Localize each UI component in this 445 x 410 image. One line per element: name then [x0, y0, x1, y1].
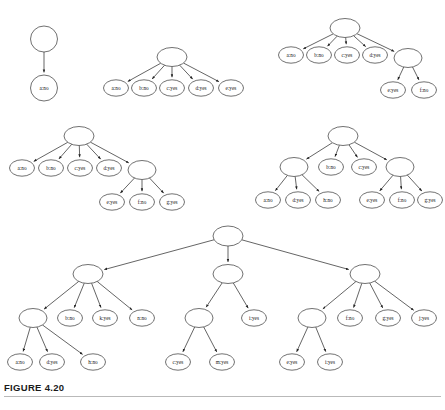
tree-node-empty — [330, 19, 360, 38]
tree-edge — [34, 142, 68, 161]
tree-edge — [349, 145, 358, 158]
tree-edge — [398, 67, 404, 80]
tree-edge — [370, 283, 383, 308]
tree-node-labeled: f:no — [412, 82, 437, 98]
tree-node-empty — [213, 265, 243, 284]
tree-node-labeled: d:yes — [189, 80, 214, 96]
tree-node-labeled: h:no — [81, 354, 106, 370]
tree-edge — [295, 176, 297, 189]
tree-node-labeled: a:no — [10, 160, 35, 176]
tree-edge — [206, 283, 222, 307]
tree-node-empty — [386, 158, 414, 177]
node-label: a:no — [286, 52, 295, 58]
caption-divider — [4, 396, 441, 397]
tree-edge — [375, 281, 414, 310]
node-ellipse — [31, 26, 58, 52]
tree-node-labeled: k:yes — [93, 310, 118, 326]
tree-nodes-tree-5: b:noc:yesa:nod:yesh:noe:yesf:nog:yes — [256, 127, 443, 209]
node-ellipse — [19, 309, 47, 328]
node-label: g:yes — [166, 199, 177, 205]
tree-node-empty — [298, 309, 326, 328]
tree-edge — [401, 176, 402, 189]
tree-node-labeled: b:no — [39, 160, 64, 176]
tree-edge — [354, 36, 366, 47]
tree-node-empty — [394, 49, 422, 68]
figure-caption-block: FIGURE 4.20 — [4, 382, 441, 397]
node-label: d:yes — [292, 197, 303, 203]
node-label: a:no — [15, 359, 24, 365]
node-label: h:no — [88, 359, 98, 365]
tree-node-labeled: b:no — [132, 80, 157, 96]
tree-node-labeled: m:yes — [210, 354, 235, 370]
node-label: m:yes — [216, 359, 229, 365]
node-ellipse — [157, 48, 187, 67]
tree-node-empty — [64, 127, 94, 146]
tree-node-empty — [280, 158, 308, 177]
tree-edge — [302, 175, 319, 192]
node-ellipse — [386, 158, 414, 177]
node-label: f:no — [138, 199, 147, 205]
node-label: c:yes — [359, 164, 370, 170]
tree-edge — [306, 143, 332, 159]
node-label: a:no — [39, 85, 48, 91]
tree-node-empty — [31, 26, 58, 52]
node-label: e:yes — [367, 197, 378, 203]
tree-edge — [297, 327, 308, 352]
tree-node-labeled: c:yes — [160, 80, 185, 96]
tree-node-labeled: a:no — [256, 192, 281, 208]
tree-edge — [74, 283, 84, 307]
node-label: b:no — [314, 52, 324, 58]
tree-node-labeled: d:yes — [97, 160, 122, 176]
tree-node-labeled: c:yes — [352, 159, 377, 175]
tree-edge — [97, 282, 132, 310]
tree-edge — [354, 142, 386, 160]
tree-edge — [242, 240, 349, 270]
node-label: f:no — [420, 87, 429, 93]
tree-edge — [150, 178, 164, 193]
tree-node-labeled: h:no — [316, 192, 341, 208]
tree-edge — [323, 282, 356, 309]
tree-node-empty — [128, 161, 156, 180]
node-label: c:yes — [342, 52, 353, 58]
tree-edge — [327, 36, 337, 46]
tree-edge — [407, 175, 422, 191]
tree-edge — [180, 65, 193, 79]
tree-node-labeled: a:no — [104, 80, 129, 96]
tree-edge — [184, 63, 219, 82]
tree-node-labeled: b:no — [307, 47, 332, 63]
tree-edge — [413, 67, 419, 80]
figure-4-20-tree-diagrams: a:noa:nob:noc:yesd:yese:yesa:nob:noc:yes… — [0, 0, 445, 410]
tree-node-empty — [213, 226, 243, 246]
nodes-layer: a:noa:nob:noc:yesd:yese:yesa:nob:noc:yes… — [8, 19, 443, 371]
tree-node-empty — [185, 309, 213, 328]
tree-nodes-tree-4: a:nob:noc:yesd:yese:yesf:nog:yes — [10, 127, 185, 211]
tree-node-labeled: i:yes — [318, 354, 343, 370]
node-label: d:yes — [195, 85, 206, 91]
node-label: b:no — [139, 85, 149, 91]
node-label: j:yes — [418, 315, 429, 321]
node-label: b:no — [46, 165, 56, 171]
tree-node-labeled: e:yes — [381, 82, 406, 98]
tree-edge — [128, 63, 161, 81]
node-ellipse — [185, 309, 213, 328]
tree-node-labeled: e:yes — [360, 192, 385, 208]
tree-edges-tree-6 — [23, 240, 414, 355]
tree-edge — [354, 283, 362, 307]
node-label: e:yes — [287, 359, 298, 365]
tree-node-labeled: f:no — [338, 310, 363, 326]
tree-node-labeled: g:yes — [418, 192, 443, 208]
node-label: h:no — [323, 197, 333, 203]
tree-node-labeled: d:yes — [363, 47, 388, 63]
node-ellipse — [280, 158, 308, 177]
node-label: k:yes — [99, 315, 110, 321]
node-ellipse — [213, 265, 243, 284]
tree-edge — [204, 327, 217, 352]
node-label: a:no — [17, 165, 26, 171]
tree-edge — [346, 37, 347, 44]
tree-edge — [43, 325, 83, 354]
node-ellipse — [350, 265, 380, 284]
tree-node-labeled: g:yes — [160, 194, 185, 210]
tree-node-labeled: a:no — [31, 75, 58, 101]
tree-nodes-tree-2: a:nob:noc:yesd:yese:yes — [104, 48, 244, 97]
tree-node-labeled: d:yes — [286, 192, 311, 208]
